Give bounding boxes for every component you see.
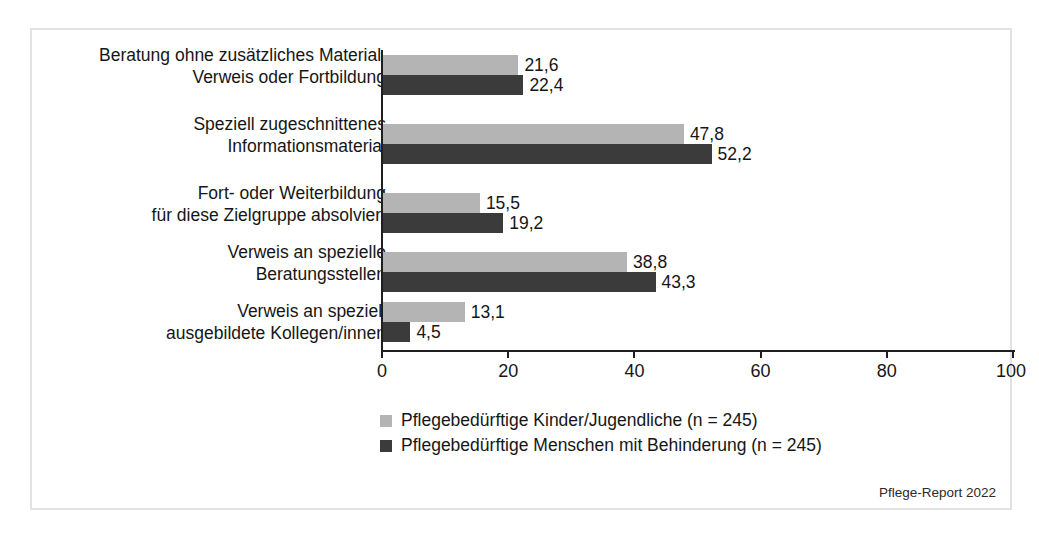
- legend-item-label: Pflegebedürftige Menschen mit Behinderun…: [401, 435, 822, 456]
- x-axis-tick-label: 60: [751, 361, 771, 382]
- bar-value-label: 22,4: [523, 75, 563, 95]
- x-axis-tick: [507, 350, 509, 358]
- bar-value-label: 43,3: [656, 272, 696, 292]
- category-label: Verweis an speziell ausgebildete Kollege…: [0, 300, 386, 344]
- bar-light[interactable]: [382, 302, 465, 322]
- legend-item[interactable]: Pflegebedürftige Menschen mit Behinderun…: [380, 433, 822, 458]
- x-axis-tick-label: 100: [996, 361, 1026, 382]
- legend-item[interactable]: Pflegebedürftige Kinder/Jugendliche (n =…: [380, 408, 822, 433]
- source-note: Pflege-Report 2022: [879, 485, 996, 500]
- x-axis-tick: [1012, 350, 1014, 358]
- x-axis-tick: [381, 350, 383, 358]
- bar-light[interactable]: [382, 193, 480, 213]
- category-label: Verweis an spezielle Beratungsstellen: [0, 241, 386, 285]
- chart-plot-area: Beratung ohne zusätzliches Material, Ver…: [32, 30, 1014, 512]
- bar-dark[interactable]: [382, 144, 712, 164]
- y-axis-line: [381, 50, 383, 352]
- legend-swatch-icon: [380, 440, 392, 452]
- x-axis-tick: [760, 350, 762, 358]
- bar-value-label: 19,2: [503, 213, 543, 233]
- legend-item-label: Pflegebedürftige Kinder/Jugendliche (n =…: [401, 410, 758, 431]
- x-axis-tick-label: 80: [877, 361, 897, 382]
- bar-value-label: 52,2: [712, 144, 752, 164]
- x-axis-tick: [886, 350, 888, 358]
- x-axis-line: [381, 350, 1015, 352]
- legend-swatch-icon: [380, 415, 392, 427]
- category-label: Fort- oder Weiterbildung für diese Zielg…: [0, 182, 386, 226]
- figure-frame: Beratung ohne zusätzliches Material, Ver…: [30, 28, 1012, 510]
- x-axis-tick-label: 40: [624, 361, 644, 382]
- category-label: Speziell zugeschnittenes Informationsmat…: [0, 113, 386, 157]
- x-axis-tick-label: 20: [498, 361, 518, 382]
- bar-value-label: 47,8: [684, 124, 724, 144]
- bar-light[interactable]: [382, 124, 684, 144]
- bar-value-label: 21,6: [518, 55, 558, 75]
- bar-dark[interactable]: [382, 272, 656, 292]
- bar-dark[interactable]: [382, 322, 410, 342]
- bar-light[interactable]: [382, 55, 518, 75]
- category-label: Beratung ohne zusätzliches Material, Ver…: [0, 44, 386, 88]
- bar-value-label: 13,1: [465, 302, 505, 322]
- bar-dark[interactable]: [382, 213, 503, 233]
- bar-value-label: 4,5: [410, 322, 440, 342]
- bar-dark[interactable]: [382, 75, 523, 95]
- x-axis-tick: [633, 350, 635, 358]
- bar-value-label: 15,5: [480, 193, 520, 213]
- bar-light[interactable]: [382, 252, 627, 272]
- bar-value-label: 38,8: [627, 252, 667, 272]
- x-axis-tick-label: 0: [377, 361, 387, 382]
- chart-legend: Pflegebedürftige Kinder/Jugendliche (n =…: [380, 408, 822, 458]
